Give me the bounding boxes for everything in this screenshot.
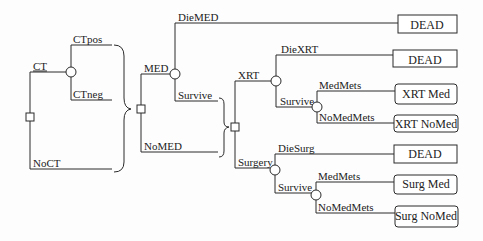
outcome-surg-med-label: Surg Med: [402, 177, 449, 191]
tree-canvas: CT NoCT CTpos CTneg MED NoMED DieMED Sur…: [0, 0, 483, 241]
xrt-nomedmets-label: NoMedMets: [319, 111, 375, 123]
treatment-decision-node[interactable]: [231, 123, 239, 131]
outcome-xrt-nomed-label: XRT NoMed: [395, 117, 458, 131]
ctpos-label: CTpos: [73, 33, 102, 45]
brace-2: [219, 98, 229, 157]
surgery-branch-line: [235, 81, 270, 168]
survive-surg-label: Survive: [278, 181, 312, 193]
diexrt-label: DieXRT: [281, 43, 319, 55]
diexrt-branch-line: [276, 55, 393, 76]
ct-decision-node[interactable]: [26, 113, 34, 121]
med-label: MED: [144, 62, 169, 74]
xrt-chance-node[interactable]: [271, 76, 281, 86]
outcome-dead-xrt-label: DEAD: [408, 53, 442, 67]
diesurg-label: DieSurg: [278, 142, 315, 154]
diemed-label: DieMED: [178, 11, 218, 23]
treatment-decision-group: XRT Surgery DieXRT Survive MedMets NoMed…: [231, 43, 395, 213]
outcome-surg-nomed-label: Surg NoMed: [395, 209, 457, 223]
surg-survive-chance-node[interactable]: [311, 190, 321, 200]
nomed-label: NoMED: [144, 140, 182, 152]
surgery-chance-node[interactable]: [270, 165, 280, 175]
survive-xrt-label: Survive: [280, 95, 314, 107]
med-decision-node[interactable]: [137, 105, 145, 113]
outcome-boxes: DEAD DEAD XRT Med XRT NoMed DEAD Surg Me…: [393, 15, 458, 227]
ctpos-branch-line: [71, 45, 112, 67]
surg-medmets-line: [316, 182, 394, 190]
outcome-xrt-med-label: XRT Med: [402, 87, 450, 101]
outcome-dead-surg-label: DEAD: [408, 147, 442, 161]
surg-medmets-label: MedMets: [318, 170, 360, 182]
ct-decision-group: CT NoCT CTpos CTneg: [26, 33, 131, 172]
surgery-label: Surgery: [238, 156, 273, 168]
survive-med-label: Survive: [178, 89, 212, 101]
ct-chance-node[interactable]: [66, 67, 76, 77]
ctneg-label: CTneg: [73, 88, 103, 100]
xrt-label: XRT: [238, 69, 260, 81]
diesurg-branch-line: [275, 154, 394, 165]
brace-1: [114, 45, 131, 172]
decision-tree-diagram: CT NoCT CTpos CTneg MED NoMED DieMED Sur…: [0, 0, 483, 241]
outcome-dead-med-label: DEAD: [410, 18, 444, 32]
xrt-medmets-line: [317, 91, 395, 102]
med-chance-node[interactable]: [170, 69, 180, 79]
ct-label: CT: [33, 60, 47, 72]
noct-label: NoCT: [33, 157, 61, 169]
xrt-medmets-label: MedMets: [319, 79, 361, 91]
surg-nomedmets-label: NoMedMets: [318, 201, 374, 213]
